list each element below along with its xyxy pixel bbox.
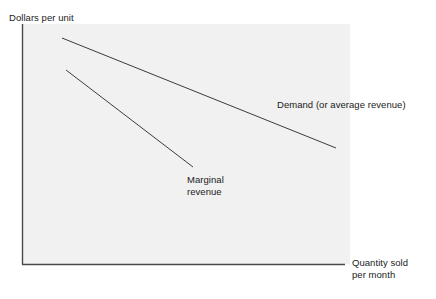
demand-curve-label: Demand (or average revenue): [277, 99, 406, 111]
marginal-revenue-label-line2: revenue: [187, 186, 224, 198]
x-axis-label-line2: per month: [352, 269, 408, 281]
demand-curve-line: [62, 38, 336, 148]
chart-svg: [0, 0, 436, 299]
marginal-revenue-label: Marginal revenue: [187, 174, 224, 198]
marginal-revenue-label-line1: Marginal: [187, 174, 224, 186]
figure-canvas: Dollars per unit Quantity sold per month…: [0, 0, 436, 299]
x-axis-label: Quantity sold per month: [352, 257, 408, 281]
marginal-revenue-line: [66, 70, 193, 167]
y-axis-label: Dollars per unit: [9, 12, 74, 24]
x-axis-label-line1: Quantity sold: [352, 257, 408, 269]
